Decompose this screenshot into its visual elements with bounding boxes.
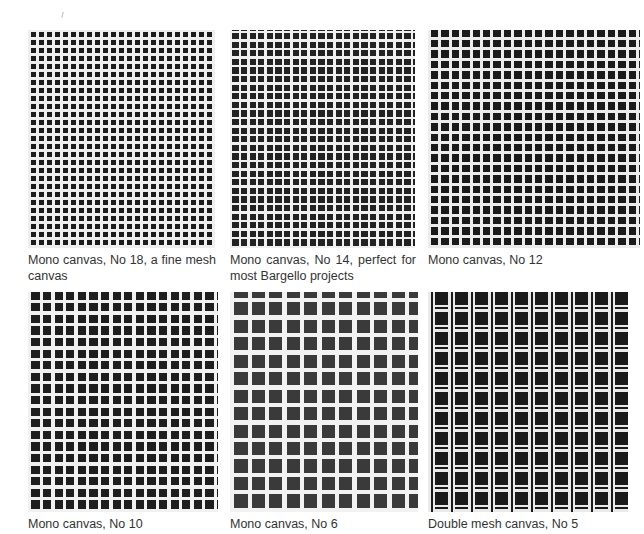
canvas-image-double-no5 — [428, 292, 628, 512]
caption-no10: Mono canvas, No 10 — [28, 516, 218, 532]
canvas-image-no18 — [28, 30, 215, 248]
canvas-image-no12 — [428, 30, 640, 248]
stray-mark — [61, 12, 65, 19]
caption-no6: Mono canvas, No 6 — [230, 516, 418, 532]
caption-no12: Mono canvas, No 12 — [428, 252, 640, 268]
caption-double-no5: Double mesh canvas, No 5 — [428, 516, 640, 532]
canvas-image-no10 — [28, 292, 218, 512]
canvas-image-no6 — [230, 292, 418, 512]
caption-no18: Mono canvas, No 18, a fine mesh canvas — [28, 252, 216, 284]
caption-no14: Mono canvas, No 14, perfect for most Bar… — [230, 252, 416, 284]
canvas-image-no14 — [230, 30, 415, 248]
